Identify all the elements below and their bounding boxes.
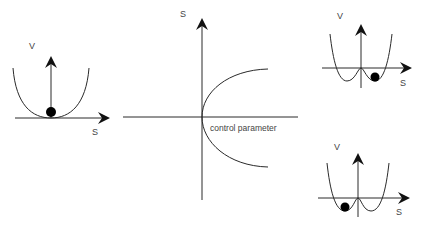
v-label: V bbox=[334, 142, 340, 152]
s-label: S bbox=[396, 207, 402, 217]
left-panel: V S bbox=[13, 41, 108, 137]
s-label: S bbox=[400, 78, 406, 88]
bifurcation-upper-branch bbox=[202, 69, 268, 117]
center-panel: S control parameter bbox=[123, 9, 298, 200]
top-right-panel: V S bbox=[322, 11, 410, 88]
v-label: V bbox=[29, 41, 35, 51]
control-parameter-label: control parameter bbox=[210, 123, 277, 133]
diagram-canvas: V S S control parameter V S V bbox=[0, 0, 423, 229]
v-label: V bbox=[337, 11, 343, 21]
diagram-svg: V S S control parameter V S V bbox=[0, 0, 423, 229]
s-label: S bbox=[180, 9, 186, 19]
s-label: S bbox=[92, 127, 98, 137]
ball-icon bbox=[46, 107, 56, 117]
bottom-right-panel: V S bbox=[318, 142, 408, 217]
ball-icon bbox=[371, 73, 380, 82]
ball-icon bbox=[341, 203, 350, 212]
